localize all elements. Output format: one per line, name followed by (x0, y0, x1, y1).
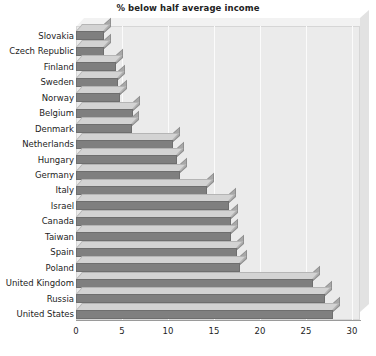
y-axis-label: Russia (47, 294, 74, 304)
bar-top-face (76, 164, 186, 171)
plot-panel-depth-right (360, 10, 369, 312)
chart-title: % below half average income (0, 3, 376, 13)
x-axis-tick-label: 0 (61, 326, 91, 336)
bar-top-face (76, 55, 122, 62)
bar-front-face (76, 201, 229, 210)
bar-front-face (76, 124, 132, 133)
bar-front-face (76, 263, 240, 272)
y-axis-label: Hungary (38, 155, 74, 165)
x-axis-tick-label: 10 (153, 326, 183, 336)
y-axis-label: Slovakia (38, 31, 74, 41)
bar (76, 62, 116, 71)
bar-top-face (76, 303, 339, 310)
bar-top-face (76, 287, 332, 294)
bar-top-face (76, 179, 213, 186)
bar-top-face (76, 86, 126, 93)
y-axis-label: Israel (51, 201, 74, 211)
bar-front-face (76, 232, 231, 241)
y-axis-label: Denmark (35, 124, 74, 134)
bar (76, 155, 177, 164)
x-axis-tick-label: 5 (107, 326, 137, 336)
x-axis-tick-label: 25 (291, 326, 321, 336)
y-axis-label: Canada (42, 216, 74, 226)
bar-top-face (76, 148, 183, 155)
bar (76, 232, 231, 241)
bar-front-face (76, 62, 116, 71)
bar-front-face (76, 155, 177, 164)
bar-top-face (76, 133, 179, 140)
bar-top-face (76, 71, 125, 78)
y-axis-label: Netherlands (22, 139, 74, 149)
bar-front-face (76, 310, 333, 319)
bar-top-face (76, 225, 237, 232)
y-axis-label: Czech Republic (9, 46, 74, 56)
y-axis-label: Germany (35, 170, 74, 180)
x-axis-line (76, 320, 361, 321)
bar-top-face (76, 102, 139, 109)
y-axis-label: Sweden (40, 77, 74, 87)
bar (76, 310, 333, 319)
y-axis-label: Norway (42, 93, 74, 103)
x-axis-tick-label: 30 (337, 326, 367, 336)
bar-top-face (76, 272, 320, 279)
y-axis-label: Belgium (39, 108, 74, 118)
bar-front-face (76, 93, 120, 102)
y-axis-label: Spain (50, 247, 74, 257)
bar-front-face (76, 294, 325, 303)
y-axis-label: United States (16, 309, 74, 319)
y-axis-label: Taiwan (45, 232, 74, 242)
y-axis-label: Poland (46, 263, 74, 273)
bar-front-face (76, 31, 104, 40)
bar (76, 201, 229, 210)
gridline (352, 26, 353, 320)
y-axis-label: United Kingdom (6, 278, 74, 288)
chart-container: % below half average income SlovakiaCzec… (0, 0, 376, 356)
y-axis-label: Italy (56, 185, 74, 195)
bar-top-face (76, 241, 243, 248)
bar-top-face (76, 117, 138, 124)
bar-top-face (76, 210, 237, 217)
bar-top-face (76, 256, 246, 263)
y-axis-label: Finland (44, 62, 74, 72)
bar (76, 124, 132, 133)
x-axis-tick-label: 15 (199, 326, 229, 336)
x-axis-tick-label: 20 (245, 326, 275, 336)
bar (76, 263, 240, 272)
bar-top-face (76, 194, 235, 201)
bar (76, 294, 325, 303)
bar (76, 31, 104, 40)
bar (76, 93, 120, 102)
